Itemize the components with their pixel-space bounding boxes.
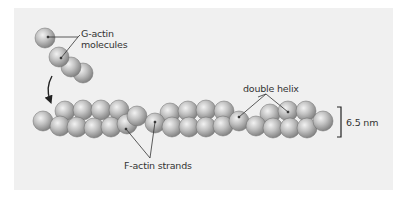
f-actin-strands-label: F-actin strands bbox=[124, 160, 192, 171]
actin-diagram bbox=[0, 0, 401, 198]
polymerization-arrow-icon bbox=[48, 76, 52, 100]
g-actin-label-line1: G-actin bbox=[81, 28, 127, 39]
g-actin-sphere bbox=[35, 28, 55, 48]
g-actin-sphere bbox=[49, 47, 69, 67]
g-actin-label: G-actin molecules bbox=[81, 28, 127, 50]
g-actin-label-line2: molecules bbox=[81, 39, 127, 50]
diameter-bracket bbox=[337, 107, 341, 137]
diameter-label: 6.5 nm bbox=[346, 117, 378, 128]
double-helix-label: double helix bbox=[243, 83, 299, 94]
